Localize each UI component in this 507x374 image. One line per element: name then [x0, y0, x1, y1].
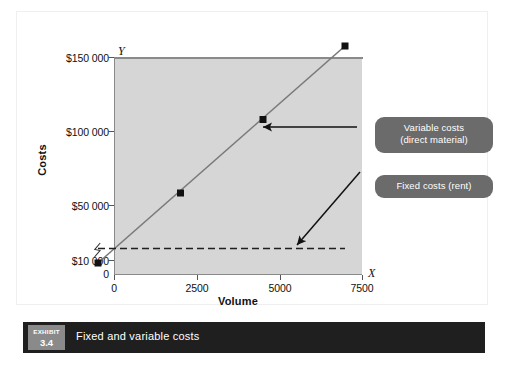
exhibit-badge: EXHIBIT 3.4: [28, 325, 65, 350]
y-axis-break-symbol: [95, 243, 101, 257]
data-point-marker-0: [95, 260, 102, 267]
data-point-marker-7500: [342, 43, 349, 50]
fixed-costs-leader-arrow: [297, 172, 360, 245]
data-point-marker-2500: [177, 190, 184, 197]
chart-graphics-overlay: [0, 0, 507, 374]
exhibit-badge-number: 3.4: [28, 337, 65, 348]
data-point-marker-5000: [260, 116, 267, 123]
exhibit-figure: Y X $150 000 $100 000 $50 000 $10 000 0 …: [0, 0, 507, 374]
variable-cost-line: [98, 46, 345, 263]
exhibit-title: Fixed and variable costs: [76, 330, 199, 342]
exhibit-badge-word: EXHIBIT: [28, 325, 65, 337]
exhibit-caption-bar: EXHIBIT 3.4 Fixed and variable costs: [23, 322, 485, 353]
